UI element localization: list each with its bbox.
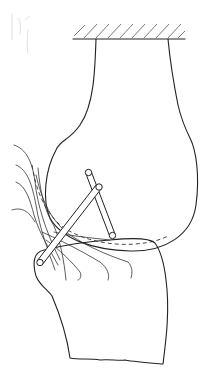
- cruciate-rod-anterior: [37, 184, 102, 266]
- faint-marks: [12, 14, 30, 54]
- hatched-ceiling: [73, 24, 185, 39]
- knee-linkage-diagram: [0, 0, 204, 374]
- ligament-fibers: [12, 145, 132, 280]
- femur-outline: [45, 39, 197, 251]
